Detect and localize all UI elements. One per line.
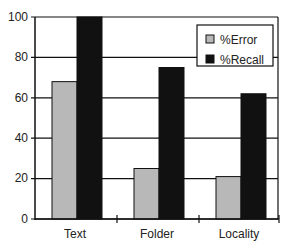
category-label-folder: Folder <box>140 227 174 241</box>
bar-locality-error <box>216 177 241 219</box>
category-labels: Text Folder Locality <box>64 227 259 241</box>
y-tick-40: 40 <box>15 131 29 145</box>
y-tick-labels: 0 20 40 60 80 100 <box>8 10 28 226</box>
y-tick-80: 80 <box>15 50 29 64</box>
bar-folder-recall <box>159 68 184 220</box>
y-tick-0: 0 <box>21 212 28 226</box>
legend-swatch-recall <box>206 55 214 63</box>
y-tick-100: 100 <box>8 10 28 24</box>
category-label-text: Text <box>64 227 87 241</box>
bar-text-recall <box>77 17 102 219</box>
bar-chart: 0 20 40 60 80 100 Text Folder Locality %… <box>0 0 290 247</box>
legend-label-error: %Error <box>220 33 257 47</box>
y-tick-20: 20 <box>15 171 29 185</box>
legend: %Error %Recall <box>197 25 273 67</box>
y-tick-60: 60 <box>15 91 29 105</box>
bar-locality-recall <box>241 94 266 219</box>
legend-label-recall: %Recall <box>220 53 264 67</box>
category-label-locality: Locality <box>219 227 260 241</box>
bar-text-error <box>52 82 77 219</box>
legend-swatch-error <box>206 35 214 43</box>
bar-folder-error <box>134 169 159 220</box>
